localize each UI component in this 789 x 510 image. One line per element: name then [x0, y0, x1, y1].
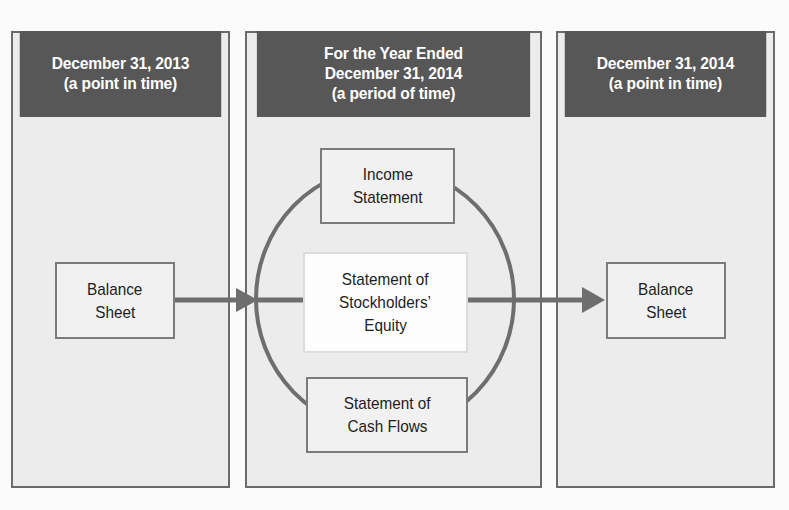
cash-flows-box: Statement of Cash Flows — [306, 377, 468, 453]
box-label: Statement of — [344, 392, 431, 415]
box-label: Income — [362, 163, 412, 186]
panel-header-start: December 31, 2013 (a point in time) — [20, 31, 221, 117]
income-statement-box: Income Statement — [320, 148, 455, 224]
box-label: Equity — [364, 314, 407, 337]
header-date: December 31, 2014 — [597, 54, 735, 74]
panel-header-end: December 31, 2014 (a point in time) — [565, 31, 766, 117]
panel-december-31-2014: December 31, 2014 (a point in time) — [556, 31, 775, 488]
box-label: Sheet — [646, 301, 686, 324]
box-label: Statement of — [342, 268, 429, 291]
box-label: Balance — [87, 278, 142, 301]
header-subtitle: (a period of time) — [332, 84, 456, 104]
box-label: Stockholders’ — [340, 291, 432, 314]
header-date: December 31, 2014 — [325, 64, 463, 84]
panel-december-31-2013: December 31, 2013 (a point in time) — [11, 31, 230, 488]
header-date: December 31, 2013 — [52, 54, 190, 74]
box-label: Statement — [353, 186, 423, 209]
box-label: Balance — [638, 278, 693, 301]
stockholders-equity-box: Statement of Stockholders’ Equity — [303, 252, 468, 353]
box-label: Sheet — [95, 301, 135, 324]
balance-sheet-end-box: Balance Sheet — [606, 262, 726, 339]
box-label: Cash Flows — [347, 415, 427, 438]
panel-header-period: For the Year Ended December 31, 2014 (a … — [257, 31, 530, 117]
header-line-1: For the Year Ended — [324, 44, 463, 64]
header-subtitle: (a point in time) — [64, 74, 177, 94]
header-subtitle: (a point in time) — [609, 74, 722, 94]
balance-sheet-start-box: Balance Sheet — [55, 262, 175, 339]
